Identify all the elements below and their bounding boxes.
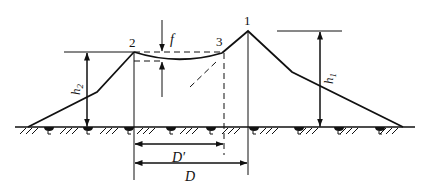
h2-label: h2 [68,84,85,96]
reference-lines [134,31,248,180]
point-1-label: 1 [244,13,251,28]
d-label: D [184,169,195,184]
h1-label: h1 [321,73,338,84]
point-3-label: 3 [216,34,223,49]
embankment-diagram: h2 h1 f D′ D 1 2 3 [0,0,427,189]
point-2-label: 2 [129,35,136,50]
ground [15,127,415,134]
sag-label: f [170,32,176,47]
